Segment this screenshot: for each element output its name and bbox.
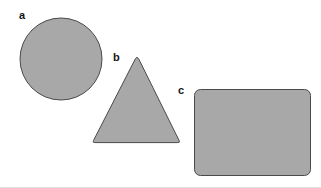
rectangle-shape: [192, 87, 314, 179]
figure-canvas: a b c: [0, 0, 321, 188]
triangle-shape: [89, 55, 185, 147]
shape-label-c: c: [178, 85, 184, 96]
